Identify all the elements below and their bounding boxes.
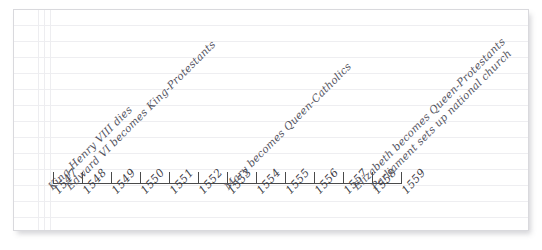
axis-year-label: 1550 xyxy=(138,166,167,197)
axis-tick xyxy=(314,172,315,184)
axis-tick xyxy=(140,172,141,184)
event-label-parliament-national-church: Parliament sets up national church xyxy=(369,47,514,192)
axis-year-label: 1555 xyxy=(283,166,312,197)
axis-year-label: 1552 xyxy=(196,166,225,197)
event-label-edward-vi-becomes-king: Edward VI becomes King-Protestants xyxy=(64,38,218,192)
axis-tick xyxy=(111,172,112,184)
timeline-card: 1547 1548 1549 1550 1551 1552 1553 1554 … xyxy=(13,9,529,231)
axis-year-label: 1559 xyxy=(399,166,428,197)
axis-tick xyxy=(256,172,257,184)
timeline-plot: 1547 1548 1549 1550 1551 1552 1553 1554 … xyxy=(14,10,528,230)
timeline-screenshot: 1547 1548 1549 1550 1551 1552 1553 1554 … xyxy=(0,0,542,250)
event-label-elizabeth-becomes-queen: Elizabeth becomes Queen-Protestants xyxy=(351,35,508,192)
axis-year-label: 1554 xyxy=(254,166,283,197)
axis-year-label: 1551 xyxy=(167,166,196,197)
axis-tick xyxy=(343,172,344,184)
axis-tick xyxy=(285,172,286,184)
axis-tick xyxy=(401,172,402,184)
axis-year-label: 1549 xyxy=(109,166,138,197)
axis-year-label: 1556 xyxy=(312,166,341,197)
axis-tick xyxy=(198,172,199,184)
axis-tick xyxy=(169,172,170,184)
